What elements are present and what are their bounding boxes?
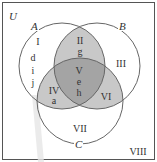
set-C-label: C bbox=[75, 138, 83, 150]
region-VI-label: VI bbox=[101, 91, 112, 102]
region-II-element-g: g bbox=[78, 46, 83, 57]
region-V-element-h: h bbox=[77, 87, 82, 98]
region-V-label: V bbox=[75, 65, 83, 76]
universal-label: U bbox=[9, 10, 18, 22]
region-I-element-i: i bbox=[32, 65, 35, 76]
region-III-label: III bbox=[116, 58, 126, 69]
region-II-label: II bbox=[77, 35, 84, 46]
set-A-label: A bbox=[30, 20, 38, 32]
region-VII-label: VII bbox=[73, 123, 87, 134]
region-I-element-j: j bbox=[31, 77, 35, 88]
region-IV-element-a: a bbox=[52, 95, 57, 106]
region-V-element-e: e bbox=[77, 76, 82, 87]
region-I-label: I bbox=[36, 36, 39, 47]
venn-diagram: U A B C I d i j II g III IV a V e h VI V… bbox=[0, 0, 157, 162]
region-I-element-d: d bbox=[31, 52, 36, 63]
set-B-label: B bbox=[119, 20, 126, 32]
region-VIII-label: VIII bbox=[129, 146, 146, 157]
